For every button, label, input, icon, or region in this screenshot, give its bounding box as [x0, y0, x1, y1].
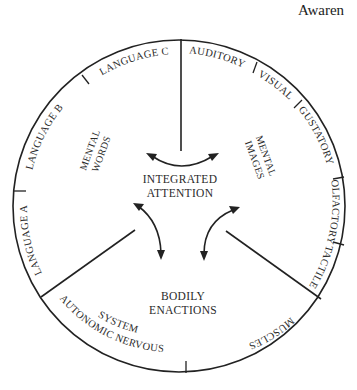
svg-text:BODILY: BODILY [161, 290, 205, 302]
region-mental-words: MENTAL WORDS [77, 128, 113, 176]
divider-lower-right [226, 231, 321, 299]
arrow-top [146, 153, 219, 166]
label-auditory: AUDITORY [189, 44, 247, 69]
svg-text:ENACTIONS: ENACTIONS [149, 304, 217, 316]
label-tactile: TACTILE [307, 244, 335, 290]
label-language-b: LANGUAGE B [24, 102, 66, 171]
center-integrated-attention: INTEGRATED ATTENTION [143, 173, 218, 199]
outer-circle [13, 40, 345, 372]
label-visual: VISUAL [256, 68, 295, 102]
svg-text:ATTENTION: ATTENTION [147, 187, 214, 199]
attention-diagram: LANGUAGE C LANGUAGE B LANGUAGE A AUDITOR… [0, 0, 357, 390]
label-language-a: LANGUAGE A [18, 205, 44, 278]
region-mental-images: MENTAL IMAGES [243, 134, 279, 182]
label-muscles: MUSCLES [247, 316, 296, 352]
label-language-c: LANGUAGE C [97, 45, 169, 77]
label-olfactory: OLFACTORY [325, 179, 342, 246]
arrow-lower-left [133, 203, 165, 260]
region-bodily-enactions: BODILY ENACTIONS [149, 290, 217, 316]
arrow-lower-right [200, 206, 240, 261]
svg-text:INTEGRATED: INTEGRATED [143, 173, 218, 185]
divider-lower-left [41, 230, 135, 297]
